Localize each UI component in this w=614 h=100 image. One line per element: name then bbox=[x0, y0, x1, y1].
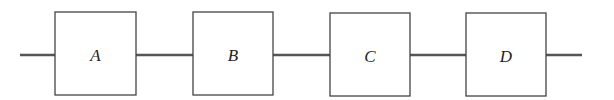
block-c-label: C bbox=[364, 47, 376, 66]
block-b: B bbox=[193, 12, 273, 95]
series-diagram: A B C D bbox=[0, 0, 614, 100]
block-d: D bbox=[466, 13, 546, 96]
block-a: A bbox=[55, 12, 136, 95]
block-b-label: B bbox=[228, 46, 239, 65]
block-c: C bbox=[330, 13, 410, 96]
block-d-label: D bbox=[499, 47, 513, 66]
block-a-label: A bbox=[89, 46, 101, 65]
